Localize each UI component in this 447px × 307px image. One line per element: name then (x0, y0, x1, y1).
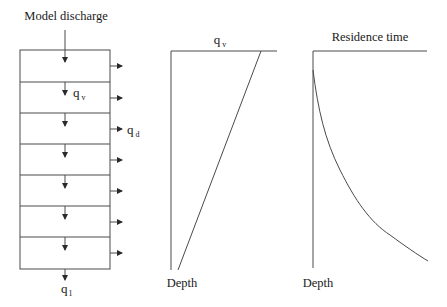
qv-label: qv (73, 85, 86, 102)
residence-time-curve (313, 70, 428, 261)
qv-axis-label: qv (214, 32, 227, 49)
residence-time-plot: Residence time Depth (303, 30, 428, 290)
discharge-diagram-canvas: Model discharge (0, 0, 447, 307)
residence-depth-label: Depth (303, 276, 334, 290)
depth-axis-label: Depth (167, 276, 198, 290)
model-discharge-title: Model discharge (24, 9, 108, 23)
residence-time-axis-label: Residence time (332, 30, 409, 44)
qv-linear-line (178, 51, 261, 270)
qd-label: qd (127, 122, 140, 139)
layered-model: Model discharge (20, 9, 140, 298)
qv-depth-plot: qv Depth (167, 32, 277, 290)
lateral-flow-arrows (110, 66, 122, 253)
q1-label: q1 (61, 281, 73, 298)
